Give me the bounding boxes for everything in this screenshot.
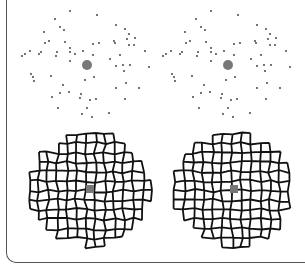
center-cell-bottom-left [86,185,94,193]
center-cell-bottom-right [230,185,238,193]
center-marker-top-left [82,60,92,70]
center-marker-top-right [223,60,233,70]
figure-canvas [0,0,305,268]
